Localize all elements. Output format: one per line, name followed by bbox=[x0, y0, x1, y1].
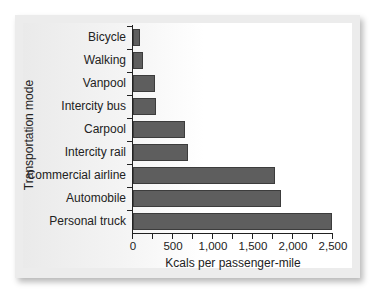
x-tick bbox=[212, 234, 213, 239]
bar-vanpool bbox=[133, 75, 155, 92]
category-label: Bicycle bbox=[88, 30, 126, 44]
bar-carpool bbox=[133, 121, 185, 138]
category-label: Commercial airline bbox=[27, 168, 126, 182]
bar-commercial-airline bbox=[133, 167, 275, 184]
x-axis-title: Kcals per passenger-mile bbox=[165, 256, 300, 270]
x-tick-label: 500 bbox=[163, 240, 182, 252]
y-tick bbox=[127, 118, 132, 119]
category-label: Personal truck bbox=[49, 214, 126, 228]
bar-intercity-bus bbox=[133, 98, 156, 115]
x-tick-label: 1,500 bbox=[239, 240, 268, 252]
category-label: Intercity rail bbox=[65, 145, 126, 159]
bar-bicycle bbox=[133, 29, 140, 46]
y-axis-line bbox=[132, 25, 133, 234]
x-tick-label: 2,000 bbox=[279, 240, 308, 252]
x-tick bbox=[172, 234, 173, 239]
x-tick bbox=[132, 234, 133, 239]
y-tick bbox=[127, 210, 132, 211]
x-tick bbox=[232, 234, 233, 239]
category-label: Automobile bbox=[66, 191, 126, 205]
category-label: Carpool bbox=[84, 122, 126, 136]
bar-personal-truck bbox=[133, 213, 332, 230]
y-tick bbox=[127, 26, 132, 27]
x-tick bbox=[272, 234, 273, 239]
y-tick bbox=[127, 72, 132, 73]
y-tick bbox=[127, 49, 132, 50]
x-tick-label: 1,000 bbox=[199, 240, 228, 252]
category-label: Intercity bus bbox=[61, 99, 126, 113]
bar-intercity-rail bbox=[133, 144, 188, 161]
x-tick bbox=[152, 234, 153, 239]
x-tick bbox=[292, 234, 293, 239]
y-tick bbox=[127, 141, 132, 142]
x-tick bbox=[312, 234, 313, 239]
y-tick bbox=[127, 164, 132, 165]
y-tick bbox=[127, 187, 132, 188]
x-tick bbox=[332, 234, 333, 239]
x-tick bbox=[252, 234, 253, 239]
bar-walking bbox=[133, 52, 143, 69]
category-label: Vanpool bbox=[83, 76, 126, 90]
y-tick bbox=[127, 95, 132, 96]
x-tick-label: 0 bbox=[130, 240, 136, 252]
x-tick bbox=[192, 234, 193, 239]
x-tick-label: 2,500 bbox=[319, 240, 348, 252]
bar-automobile bbox=[133, 190, 281, 207]
category-label: Walking bbox=[84, 53, 126, 67]
